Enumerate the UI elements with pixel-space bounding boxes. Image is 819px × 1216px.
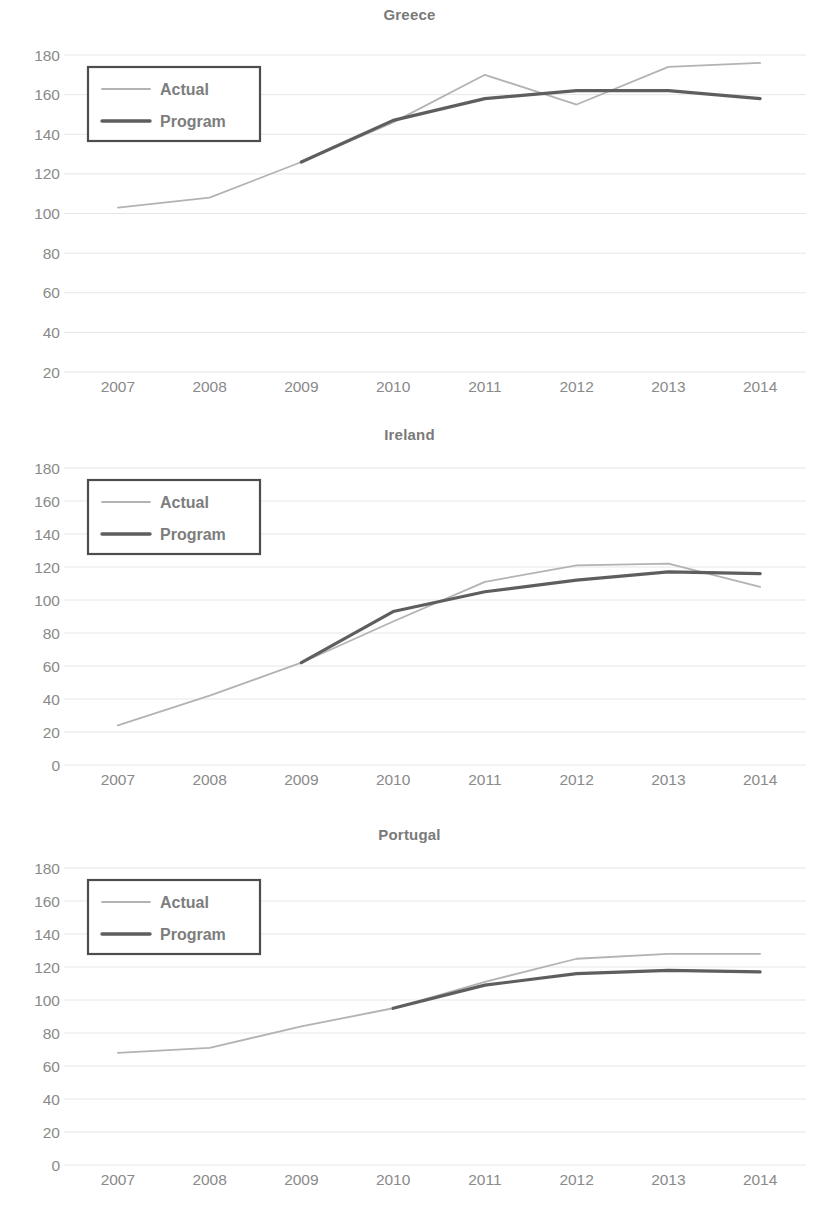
y-axis-tick-label: 120	[34, 959, 60, 976]
y-axis-tick-label: 140	[34, 126, 60, 143]
y-axis-tick-label: 20	[43, 364, 61, 381]
x-axis-tick-label: 2010	[376, 771, 411, 788]
y-axis-tick-label: 40	[43, 324, 61, 341]
legend-label-program: Program	[160, 526, 226, 543]
legend-label-actual: Actual	[160, 894, 209, 911]
panel-title-portugal: Portugal	[0, 826, 819, 843]
y-axis-tick-label: 80	[43, 1025, 61, 1042]
x-axis-tick-label: 2011	[468, 378, 501, 395]
xtick-labels-ireland: 20072008200920102011201220132014	[101, 771, 778, 788]
y-axis-tick-label: 100	[34, 205, 60, 222]
x-axis-tick-label: 2013	[651, 1171, 685, 1188]
y-axis-tick-label: 100	[34, 992, 60, 1009]
chart-panel-ireland: Ireland 020406080100120140160180 2007200…	[0, 420, 819, 820]
x-axis-tick-label: 2007	[101, 1171, 135, 1188]
x-axis-tick-label: 2008	[192, 771, 226, 788]
y-axis-tick-label: 180	[34, 860, 60, 877]
x-axis-tick-label: 2014	[743, 378, 778, 395]
y-axis-tick-label: 40	[43, 1091, 61, 1108]
x-axis-tick-label: 2010	[376, 1171, 411, 1188]
plot-portugal: 020406080100120140160180 200720082009201…	[0, 820, 819, 1216]
chart-page: Greece 20406080100120140160180 200720082…	[0, 0, 819, 1216]
panel-title-ireland: Ireland	[0, 426, 819, 443]
x-axis-tick-label: 2007	[101, 771, 135, 788]
series-line-actual	[118, 954, 760, 1053]
x-axis-tick-label: 2014	[743, 771, 778, 788]
chart-panel-greece: Greece 20406080100120140160180 200720082…	[0, 0, 819, 420]
x-axis-tick-label: 2012	[559, 378, 593, 395]
y-axis-tick-label: 100	[34, 592, 60, 609]
y-axis-tick-label: 0	[51, 1157, 60, 1174]
legend-label-program: Program	[160, 113, 226, 130]
series-line-program	[301, 572, 760, 663]
series-lines-ireland	[118, 564, 760, 726]
x-axis-tick-label: 2009	[284, 378, 318, 395]
y-axis-tick-label: 60	[43, 284, 61, 301]
x-axis-tick-label: 2009	[284, 771, 318, 788]
y-axis-tick-label: 160	[34, 493, 60, 510]
series-lines-portugal	[118, 954, 760, 1053]
plot-ireland: 020406080100120140160180 200720082009201…	[0, 420, 819, 820]
chart-panel-portugal: Portugal 020406080100120140160180 200720…	[0, 820, 819, 1216]
y-axis-tick-label: 20	[43, 724, 61, 741]
y-axis-tick-label: 180	[34, 460, 60, 477]
legend-label-actual: Actual	[160, 81, 209, 98]
y-axis-tick-label: 60	[43, 658, 61, 675]
y-axis-tick-label: 140	[34, 926, 60, 943]
x-axis-tick-label: 2014	[743, 1171, 778, 1188]
xtick-labels-greece: 20072008200920102011201220132014	[101, 378, 778, 395]
y-axis-tick-label: 180	[34, 47, 60, 64]
x-axis-tick-label: 2011	[468, 771, 501, 788]
y-axis-tick-label: 160	[34, 86, 60, 103]
y-axis-tick-label: 40	[43, 691, 61, 708]
y-axis-tick-label: 140	[34, 526, 60, 543]
ytick-labels-ireland: 020406080100120140160180	[34, 460, 72, 774]
y-axis-tick-label: 60	[43, 1058, 61, 1075]
ytick-labels-greece: 20406080100120140160180	[34, 47, 72, 381]
y-axis-tick-label: 0	[51, 757, 60, 774]
y-axis-tick-label: 160	[34, 893, 60, 910]
y-axis-tick-label: 120	[34, 165, 60, 182]
ytick-labels-portugal: 020406080100120140160180	[34, 860, 72, 1174]
y-axis-tick-label: 80	[43, 245, 61, 262]
x-axis-tick-label: 2007	[101, 378, 135, 395]
x-axis-tick-label: 2008	[192, 378, 226, 395]
y-axis-tick-label: 120	[34, 559, 60, 576]
x-axis-tick-label: 2012	[559, 1171, 593, 1188]
legend-greece: ActualProgram	[88, 67, 260, 141]
panel-title-greece: Greece	[0, 6, 819, 23]
y-axis-tick-label: 80	[43, 625, 61, 642]
x-axis-tick-label: 2012	[559, 771, 593, 788]
series-line-program	[393, 970, 760, 1008]
plot-greece: 20406080100120140160180 2007200820092010…	[0, 0, 819, 420]
y-axis-tick-label: 20	[43, 1124, 61, 1141]
legend-label-program: Program	[160, 926, 226, 943]
series-line-actual	[118, 564, 760, 726]
series-line-program	[301, 91, 760, 162]
x-axis-tick-label: 2009	[284, 1171, 318, 1188]
x-axis-tick-label: 2008	[192, 1171, 226, 1188]
xtick-labels-portugal: 20072008200920102011201220132014	[101, 1171, 778, 1188]
x-axis-tick-label: 2013	[651, 378, 685, 395]
legend-label-actual: Actual	[160, 494, 209, 511]
legend-portugal: ActualProgram	[88, 880, 260, 954]
x-axis-tick-label: 2013	[651, 771, 685, 788]
legend-ireland: ActualProgram	[88, 480, 260, 554]
x-axis-tick-label: 2011	[468, 1171, 501, 1188]
x-axis-tick-label: 2010	[376, 378, 411, 395]
